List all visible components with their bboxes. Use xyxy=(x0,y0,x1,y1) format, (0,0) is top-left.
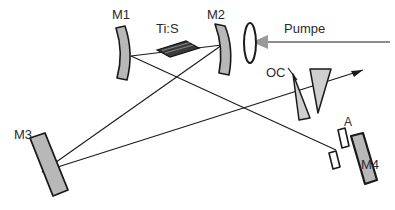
prism-right-oc xyxy=(310,69,331,113)
optical-diagram: M1 Ti:S M2 Pumpe OC A M3 M4 xyxy=(0,0,395,210)
label-m3: M3 xyxy=(14,128,32,141)
output-beam-arrow xyxy=(351,70,363,77)
beam-paths xyxy=(42,45,363,172)
label-crystal-tis: Ti:S xyxy=(156,22,179,35)
label-m4: M4 xyxy=(361,158,379,171)
prism-left-oc xyxy=(293,74,310,120)
label-oc: OC xyxy=(266,66,286,79)
oc-leader-line xyxy=(288,68,297,80)
mirror-m1 xyxy=(116,26,130,80)
mirror-m2 xyxy=(215,24,231,75)
label-aperture: A xyxy=(344,116,352,128)
label-m1: M1 xyxy=(112,8,130,21)
label-m2: M2 xyxy=(207,8,225,21)
mirror-m3 xyxy=(30,133,68,196)
diagram-canvas xyxy=(0,0,395,210)
beam-m1-to-m4 xyxy=(131,56,336,150)
crystal-tis xyxy=(157,41,199,57)
pump-beam xyxy=(252,35,390,49)
beam-m2-to-m3 xyxy=(42,45,222,172)
label-pump: Pumpe xyxy=(284,22,325,35)
pump-lens xyxy=(244,23,256,63)
